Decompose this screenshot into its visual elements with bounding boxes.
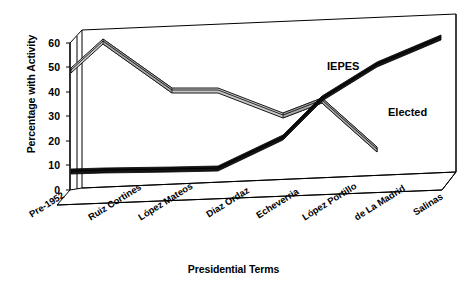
y-tick-label-10: 10 — [34, 160, 60, 170]
left-depth-face — [70, 30, 82, 43]
iepes-ribbon-front — [103, 39, 172, 93]
y-tick-label-30: 30 — [34, 111, 60, 121]
floor-right-edge — [442, 172, 456, 190]
x-axis-title: Presidential Terms — [0, 263, 467, 275]
series-label-iepes: IEPES — [327, 60, 359, 72]
back-wall-outline — [82, 14, 456, 188]
chart-canvas — [0, 0, 467, 288]
y-tick-label-20: 20 — [34, 136, 60, 146]
chart-container: Percentage with Activity 60 50 40 30 20 … — [0, 0, 467, 288]
series-label-elected: Elected — [388, 106, 427, 118]
y-tick-label-60: 60 — [34, 38, 60, 48]
y-tick-label-40: 40 — [34, 87, 60, 97]
y-tick-label-50: 50 — [34, 62, 60, 72]
